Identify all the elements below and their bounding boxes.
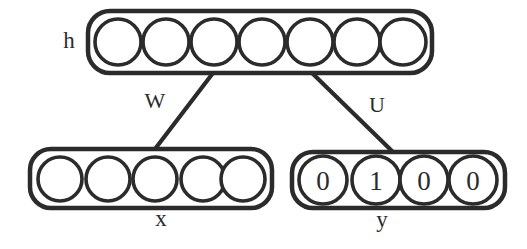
output-unit-value: 1 <box>369 166 383 196</box>
output-unit-value: 0 <box>316 166 330 196</box>
input-unit[interactable] <box>181 157 225 201</box>
layer-input[interactable] <box>30 149 272 208</box>
hidden-layer-label: h <box>63 28 75 53</box>
neural-network-diagram: 0 1 0 0 h x y W U <box>0 0 527 249</box>
output-layer-label: y <box>376 207 388 232</box>
hidden-unit[interactable] <box>191 19 237 65</box>
weight-label-U: U <box>369 92 385 117</box>
input-layer-label: x <box>155 206 167 231</box>
input-unit[interactable] <box>221 157 265 201</box>
input-unit[interactable] <box>133 157 177 201</box>
hidden-unit[interactable] <box>334 19 380 65</box>
hidden-unit[interactable] <box>143 19 189 65</box>
output-unit-value: 0 <box>417 166 431 196</box>
output-unit-value: 0 <box>466 166 480 196</box>
hidden-unit[interactable] <box>380 19 426 65</box>
weight-label-W: W <box>145 88 166 113</box>
hidden-unit[interactable] <box>287 19 333 65</box>
diagram-canvas: 0 1 0 0 h x y W U <box>0 0 527 249</box>
input-unit[interactable] <box>86 157 130 201</box>
input-unit[interactable] <box>38 157 82 201</box>
hidden-unit[interactable] <box>95 19 141 65</box>
layer-hidden[interactable] <box>88 11 432 73</box>
hidden-unit[interactable] <box>239 19 285 65</box>
connections-group <box>155 73 393 152</box>
layer-output[interactable]: 0 1 0 0 <box>292 152 505 208</box>
